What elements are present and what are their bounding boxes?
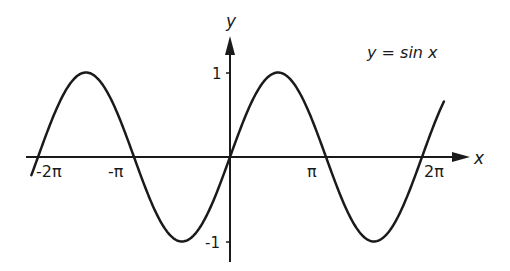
equation-text: y = sin x	[366, 43, 438, 62]
x-axis-label: x	[473, 148, 485, 168]
x-tick-label-pi: π	[307, 162, 317, 181]
x-tick-label-neg2pi: -2π	[36, 162, 62, 181]
x-tick-label-2pi: 2π	[424, 162, 444, 181]
y-tick-label-1: 1	[212, 65, 222, 83]
y-axis-label: y	[225, 11, 237, 31]
y-tick-label-neg1: -1	[205, 234, 220, 252]
x-axis-arrow-icon	[452, 152, 470, 162]
sine-chart: y x 1 -1 -2π -π π 2π y = sin x	[0, 0, 510, 271]
y-axis-arrow-icon	[225, 36, 235, 55]
x-tick-label-negpi: -π	[108, 162, 124, 181]
equation-label: y = sin x	[366, 43, 438, 62]
